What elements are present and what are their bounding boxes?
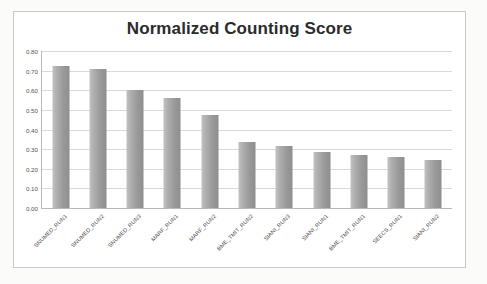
gridline: [42, 208, 452, 209]
bar-slot: [266, 51, 303, 208]
x-axis-tick-label: MARF_RUN1: [150, 213, 179, 242]
bar-slot: [191, 51, 228, 208]
y-axis-tick-label: 0.80: [26, 48, 38, 55]
y-axis-tick-label: 0.30: [26, 146, 38, 153]
bar-slot: [303, 51, 340, 208]
bar[interactable]: [350, 155, 367, 208]
bar-slot: [79, 51, 116, 208]
bar[interactable]: [52, 66, 69, 208]
x-axis-tick-label: MARF_RUN2: [188, 213, 217, 242]
bar[interactable]: [127, 90, 144, 208]
x-axis-tick-label: SNUMED_RUN1: [32, 213, 68, 249]
x-axis-tick-label: SIANI_RUN3: [263, 213, 292, 242]
bar-slot: [154, 51, 191, 208]
x-axis-tick-label: BME_TMIT_RUN2: [216, 213, 255, 252]
bar[interactable]: [425, 160, 442, 208]
bar[interactable]: [89, 69, 106, 208]
x-axis-labels: SNUMED_RUN1SNUMED_RUN2SNUMED_RUN3MARF_RU…: [41, 211, 452, 269]
y-axis-tick-label: 0.70: [26, 67, 38, 74]
bar[interactable]: [238, 142, 255, 208]
bar[interactable]: [164, 98, 181, 208]
y-axis-tick-label: 0.50: [26, 106, 38, 113]
bar[interactable]: [388, 157, 405, 208]
x-axis-tick-label: SIANI_RUN1: [300, 213, 329, 242]
bar[interactable]: [201, 115, 218, 208]
plot-area: 0.800.700.600.500.400.300.200.100.00: [41, 51, 452, 209]
y-axis-tick-label: 0.20: [26, 165, 38, 172]
bar[interactable]: [313, 152, 330, 208]
scanned-page-background: Normalized Counting Score 0.800.700.600.…: [0, 0, 487, 284]
x-axis-tick-label: SNUMED_RUN2: [70, 213, 106, 249]
bar-slot: [377, 51, 414, 208]
bar[interactable]: [276, 146, 293, 208]
y-axis-tick-label: 0.60: [26, 87, 38, 94]
bar-slot: [117, 51, 154, 208]
bar-slot: [415, 51, 452, 208]
bar-slot: [42, 51, 79, 208]
chart-frame: Normalized Counting Score 0.800.700.600.…: [13, 11, 466, 268]
x-axis-tick-label: SNUMED_RUN3: [107, 213, 143, 249]
bar-series: [42, 51, 452, 208]
bar-slot: [340, 51, 377, 208]
y-axis-tick-label: 0.00: [26, 205, 38, 212]
x-axis-tick-label: SIANI_RUN2: [412, 213, 441, 242]
x-axis-tick-label: BME_TMIT_RUN1: [327, 213, 366, 252]
chart-title: Normalized Counting Score: [14, 19, 465, 39]
bar-slot: [228, 51, 265, 208]
y-axis-tick-label: 0.40: [26, 126, 38, 133]
y-axis-tick-label: 0.10: [26, 185, 38, 192]
x-axis-tick-label: SEECS_RUN1: [372, 213, 404, 245]
